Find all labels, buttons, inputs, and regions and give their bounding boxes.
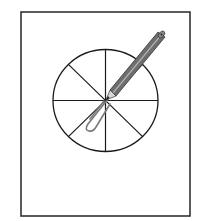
spinner-diagram — [0, 0, 197, 221]
pencil-end-lead — [161, 34, 163, 36]
